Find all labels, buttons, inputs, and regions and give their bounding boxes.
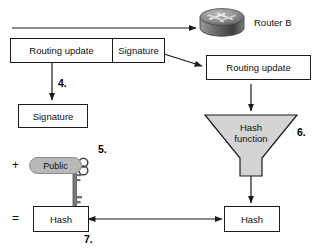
step-label-5: 5.: [98, 143, 107, 155]
packet-routing-update-cell: Routing update: [11, 39, 113, 62]
packet-box: Routing update Signature: [10, 38, 165, 63]
equals-operator: =: [12, 211, 19, 225]
router-label: Router B: [254, 17, 292, 28]
hash-function-line2: function: [234, 133, 267, 144]
packet-signature-cell: Signature: [113, 39, 164, 62]
diagram-canvas: Router B Routing update Signature Routin…: [0, 0, 325, 252]
arrow-packet-to-routing-update: [164, 54, 202, 66]
hash-function-line1: Hash: [240, 122, 262, 133]
received-routing-update-box: Routing update: [206, 55, 311, 80]
router-icon: [200, 9, 244, 37]
public-key-pill: Public: [29, 157, 82, 174]
step-label-7: 7.: [84, 233, 93, 245]
step-label-4: 4.: [58, 77, 67, 89]
hash-right-box: Hash: [224, 206, 280, 232]
hash-left-box: Hash: [33, 206, 89, 232]
extracted-signature-box: Signature: [18, 104, 88, 128]
hash-function-label: Hash function: [205, 122, 297, 144]
step-label-6: 6.: [297, 126, 306, 138]
plus-operator: +: [12, 158, 19, 172]
